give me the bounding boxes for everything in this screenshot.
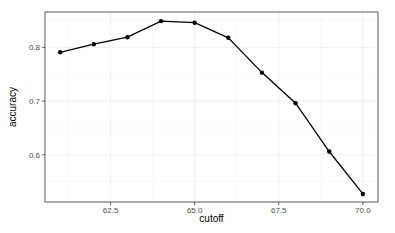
data-point: [293, 101, 297, 105]
data-point: [192, 21, 196, 25]
accuracy-line: [60, 21, 363, 194]
line-chart: 62.565.067.570.0 0.60.70.8 cutoff accura…: [0, 0, 395, 233]
data-point: [125, 35, 129, 39]
data-point: [361, 192, 365, 196]
data-point: [260, 70, 264, 74]
x-tick-label: 70.0: [355, 206, 371, 215]
major-gridlines: [45, 12, 378, 202]
x-tick-label: 67.5: [271, 206, 287, 215]
y-tick-label: 0.8: [29, 43, 41, 52]
data-point: [226, 36, 230, 40]
minor-gridlines: [45, 12, 378, 202]
data-point: [58, 50, 62, 54]
x-axis-title: cutoff: [199, 213, 223, 224]
data-point: [327, 149, 331, 153]
y-tick-label: 0.7: [29, 97, 41, 106]
plot-panel-border: [45, 12, 378, 202]
y-axis-title: accuracy: [7, 87, 18, 127]
y-tick-label: 0.6: [29, 151, 41, 160]
accuracy-points: [58, 19, 365, 196]
data-point: [92, 42, 96, 46]
y-axis-ticks: 0.60.70.8: [29, 43, 45, 159]
x-axis-ticks: 62.565.067.570.0: [103, 202, 371, 215]
data-point: [159, 19, 163, 23]
x-tick-label: 62.5: [103, 206, 119, 215]
